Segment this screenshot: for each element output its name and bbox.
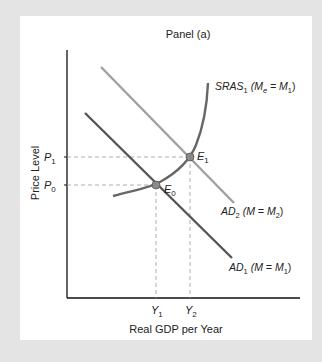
y-axis-title: Price Level (29, 146, 41, 200)
e1-label: E1 (197, 150, 209, 165)
e0-point (152, 181, 160, 189)
ad2-label: AD2 (M = M2) (220, 205, 283, 220)
y2-label: Y2 (185, 304, 197, 319)
y1-label: Y1 (151, 304, 163, 319)
panel-title: Panel (a) (166, 28, 211, 40)
p1-label: P1 (44, 151, 56, 166)
ad1-label: AD1 (M = M1) (228, 261, 291, 276)
as-ad-diagram: Panel (a) E0 E1 P1 P0 Y1 Y2 Real GDP per… (0, 0, 322, 362)
p0-label: P0 (44, 179, 56, 194)
e1-point (186, 153, 194, 161)
sras-label: SRAS1 (Me = M1) (215, 80, 296, 95)
guide-lines (67, 157, 190, 298)
sras-curve (113, 83, 208, 196)
x-axis-title: Real GDP per Year (129, 323, 223, 335)
